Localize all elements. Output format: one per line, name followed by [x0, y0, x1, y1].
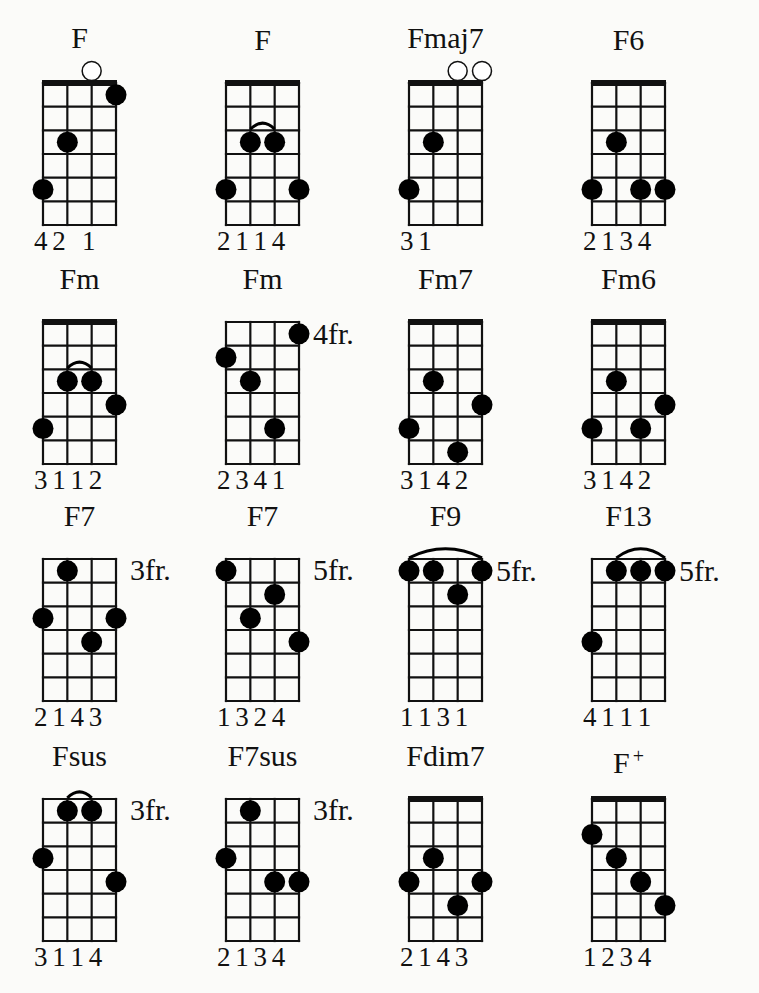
finger-dot-icon: [423, 560, 444, 581]
finger-dot-icon: [399, 179, 420, 200]
chord-name: Fdim7: [366, 739, 525, 773]
finger-dot-icon: [81, 800, 102, 821]
fingering-numbers: 3 1 1 4: [34, 943, 101, 971]
fretboard: [211, 544, 314, 716]
finger-dot-icon: [582, 631, 603, 652]
barre-arc: [409, 549, 482, 558]
finger-dot-icon: [472, 871, 493, 892]
fingering-numbers: 2 1 4 3: [400, 943, 467, 971]
nut: [42, 319, 117, 325]
chord-diagram: Fm4fr.2 3 4 1: [183, 272, 343, 502]
finger-dot-icon: [655, 560, 676, 581]
chord-diagram: Fm3 1 1 2: [0, 272, 160, 502]
finger-dot-icon: [216, 347, 237, 368]
chord-diagram: F135fr.4 1 1 1: [549, 509, 709, 739]
chord-diagram: F73fr.2 1 4 3: [0, 509, 160, 739]
chord-name: F+: [549, 739, 708, 780]
finger-dot-icon: [630, 418, 651, 439]
finger-dot-icon: [472, 394, 493, 415]
finger-dot-icon: [216, 560, 237, 581]
chord-diagram: F62 1 3 4: [549, 33, 709, 263]
finger-dot-icon: [606, 560, 627, 581]
fingering-numbers: 1 3 2 4: [217, 703, 284, 731]
fingering-numbers: 3 1 4 2: [400, 466, 467, 494]
barre-arc: [250, 123, 274, 129]
chord-name: Fm6: [549, 262, 708, 296]
finger-dot-icon: [289, 323, 310, 344]
fretboard: [28, 544, 131, 716]
finger-dot-icon: [399, 560, 420, 581]
fingering-numbers: 1 2 3 4: [583, 943, 650, 971]
chord-name: Fm: [0, 262, 159, 296]
fingering-numbers: 3 1: [400, 227, 431, 255]
nut: [591, 80, 666, 86]
fingering-numbers: 2 3 4 1: [217, 466, 284, 494]
finger-dot-icon: [447, 442, 468, 463]
finger-dot-icon: [57, 560, 78, 581]
nut: [225, 80, 300, 86]
fretboard: [577, 544, 680, 716]
finger-dot-icon: [33, 608, 54, 629]
finger-dot-icon: [655, 394, 676, 415]
chord-name: Fsus: [0, 739, 159, 773]
fretboard: [211, 784, 314, 956]
chord-name: F13: [549, 499, 708, 533]
finger-dot-icon: [606, 132, 627, 153]
fret-position-label: 3fr.: [313, 794, 354, 826]
barre-arc: [67, 792, 91, 798]
finger-dot-icon: [655, 895, 676, 916]
chord-diagram: Fm63 1 4 2: [549, 272, 709, 502]
chord-name: Fmaj7: [366, 21, 525, 55]
fretboard: [577, 68, 680, 240]
finger-dot-icon: [81, 371, 102, 392]
fretboard: [211, 307, 314, 479]
fretboard: [577, 307, 680, 479]
fretboard: [394, 307, 497, 479]
open-string-icon: [448, 62, 467, 81]
finger-dot-icon: [57, 800, 78, 821]
fingering-numbers: 2 1 1 4: [217, 227, 284, 255]
finger-dot-icon: [630, 560, 651, 581]
fretboard: [394, 784, 497, 956]
finger-dot-icon: [423, 132, 444, 153]
finger-dot-icon: [106, 871, 127, 892]
nut: [591, 319, 666, 325]
nut: [42, 80, 117, 86]
chord-name: Fm: [183, 262, 342, 296]
finger-dot-icon: [240, 132, 261, 153]
finger-dot-icon: [33, 848, 54, 869]
finger-dot-icon: [264, 871, 285, 892]
finger-dot-icon: [447, 895, 468, 916]
finger-dot-icon: [216, 848, 237, 869]
fingering-numbers: 3 1 1 2: [34, 466, 101, 494]
chord-name: F9: [366, 499, 525, 533]
nut: [408, 796, 483, 802]
finger-dot-icon: [289, 871, 310, 892]
fingering-numbers: 4 2 1: [34, 227, 95, 255]
chord-diagram: F75fr.1 3 2 4: [183, 509, 343, 739]
chord-diagram: F+1 2 3 4: [549, 749, 709, 979]
finger-dot-icon: [472, 560, 493, 581]
finger-dot-icon: [106, 84, 127, 105]
fretboard: [28, 784, 131, 956]
finger-dot-icon: [240, 800, 261, 821]
fret-position-label: 3fr.: [130, 794, 171, 826]
chord-diagram: Fm73 1 4 2: [366, 272, 526, 502]
chord-diagram: Fmaj73 1: [366, 33, 526, 263]
chord-name: Fm7: [366, 262, 525, 296]
chord-name: F: [183, 23, 342, 57]
nut: [408, 80, 483, 86]
fretboard: [394, 544, 497, 716]
fret-position-label: 4fr.: [313, 318, 354, 350]
finger-dot-icon: [106, 394, 127, 415]
fret-position-label: 5fr.: [313, 554, 354, 586]
barre-arc: [67, 362, 91, 368]
barre-arc: [616, 549, 665, 558]
chord-diagram: Fsus3fr.3 1 1 4: [0, 749, 160, 979]
chord-diagram: F4 2 1: [0, 33, 160, 263]
finger-dot-icon: [447, 584, 468, 605]
finger-dot-icon: [630, 871, 651, 892]
finger-dot-icon: [399, 418, 420, 439]
finger-dot-icon: [582, 418, 603, 439]
open-string-icon: [473, 62, 492, 81]
